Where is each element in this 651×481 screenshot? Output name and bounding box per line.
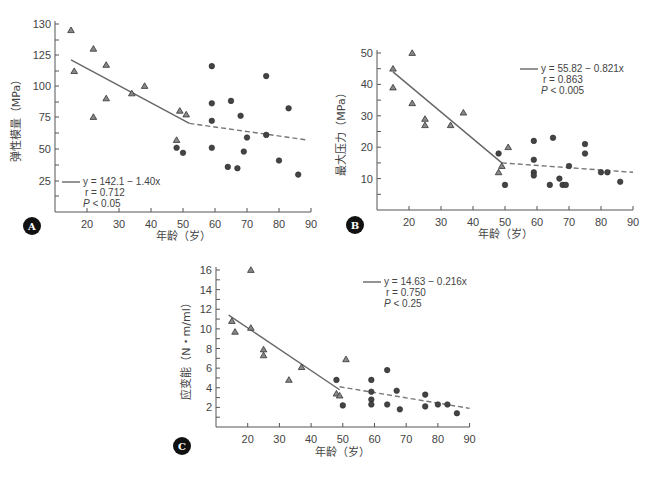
x-tick-label: 60 [209, 218, 221, 230]
circle-marker [180, 150, 186, 156]
circle-marker [225, 164, 231, 170]
circle-marker [566, 163, 572, 169]
y-axis-label: 最大压力（MPa） [334, 87, 348, 175]
y-tick-label: 2 [206, 401, 212, 413]
circle-marker [286, 106, 292, 112]
triangle-marker [409, 100, 416, 106]
x-tick-label: 60 [368, 433, 380, 445]
triangle-marker [183, 111, 190, 117]
circle-marker [422, 392, 428, 398]
circle-marker [605, 170, 611, 176]
legend-r: r = 0.863 [543, 74, 583, 85]
circle-marker [369, 377, 375, 383]
x-tick-label: 90 [463, 433, 475, 445]
x-axis-label: 年龄（岁） [478, 227, 533, 241]
regression-line-solid [229, 315, 340, 390]
x-tick-label: 70 [563, 216, 575, 228]
legend-r: r = 0.750 [386, 287, 426, 298]
y-tick-label: 12 [200, 303, 212, 315]
legend-r: r = 0.712 [85, 187, 125, 198]
y-tick-label: 20 [361, 141, 373, 153]
triangle-marker [103, 62, 110, 68]
circle-marker [276, 158, 282, 164]
y-axis-label: 应变能（N・m/ml） [179, 297, 193, 399]
triangle-marker [90, 46, 97, 52]
x-tick-label: 40 [467, 216, 479, 228]
circle-marker [531, 138, 537, 144]
x-tick-label: 70 [400, 433, 412, 445]
triangle-marker [422, 116, 429, 122]
triangle-marker [390, 66, 397, 72]
circle-marker [340, 403, 346, 409]
circle-marker [228, 98, 234, 104]
triangle-marker [343, 356, 350, 362]
y-tick-label: 30 [361, 110, 373, 122]
legend-p: P < 0.05 [83, 198, 121, 209]
y-tick-label: 75 [39, 111, 51, 123]
triangle-marker [232, 329, 239, 335]
circle-marker [422, 404, 428, 410]
x-tick-label: 40 [145, 218, 157, 230]
circle-marker [334, 377, 340, 383]
legend-p: P < 0.005 [541, 85, 585, 96]
triangle-marker [286, 377, 293, 383]
triangle-marker [260, 352, 267, 358]
y-tick-label: 50 [361, 47, 373, 59]
panel-badge-label: B [351, 220, 359, 231]
circle-marker [209, 101, 215, 107]
triangle-marker [422, 122, 429, 128]
triangle-marker [71, 68, 78, 74]
y-tick-label: 125 [33, 49, 51, 61]
circle-marker [496, 151, 502, 157]
x-tick-label: 80 [595, 216, 607, 228]
triangle-marker [103, 95, 110, 101]
circle-marker [295, 172, 301, 178]
circle-marker [397, 407, 403, 413]
circle-marker [617, 179, 623, 185]
legend-equation: y = 55.82 − 0.821x [541, 63, 624, 74]
x-tick-label: 30 [435, 216, 447, 228]
circle-marker [445, 402, 451, 408]
circle-marker [174, 145, 180, 151]
y-tick-label: 100 [33, 80, 51, 92]
triangle-marker [68, 27, 75, 33]
y-tick-label: 14 [200, 284, 212, 296]
triangle-marker [260, 346, 267, 352]
triangle-marker [90, 114, 97, 120]
y-tick-label: 16 [200, 264, 212, 276]
circle-marker [563, 182, 569, 188]
circle-marker [384, 402, 390, 408]
x-axis-label: 年龄（岁） [156, 229, 211, 243]
triangle-marker [248, 325, 255, 331]
panel-badge-label: C [178, 441, 186, 452]
x-tick-label: 50 [337, 433, 349, 445]
circle-marker [263, 132, 269, 138]
x-tick-label: 40 [305, 433, 317, 445]
legend-equation: y = 142.1 − 1.40x [83, 176, 160, 187]
y-tick-label: 10 [361, 173, 373, 185]
triangle-marker [390, 84, 397, 90]
x-tick-label: 20 [403, 216, 415, 228]
x-tick-label: 50 [499, 216, 511, 228]
circle-marker [263, 73, 269, 79]
x-tick-label: 60 [531, 216, 543, 228]
circle-marker [454, 410, 460, 416]
x-tick-label: 70 [241, 218, 253, 230]
x-tick-label: 80 [432, 433, 444, 445]
y-tick-label: 130 [33, 18, 51, 30]
circle-marker [531, 157, 537, 163]
x-axis-label: 年龄（岁） [315, 445, 370, 459]
panel-badge-label: A [27, 221, 36, 232]
circle-marker [547, 182, 553, 188]
circle-marker [369, 389, 375, 395]
chart-panel-b: 20304050607080901020304050最大压力（MPa）年龄（岁）… [334, 47, 639, 241]
triangle-marker [141, 83, 148, 89]
x-tick-label: 20 [242, 433, 254, 445]
x-tick-label: 20 [81, 218, 93, 230]
chart-panel-a: 2030405060708090255075100125130弹性模量（MPa）… [9, 18, 317, 243]
regression-line-solid [393, 72, 502, 163]
chart-panel-c: 2030405060708090246810121416应变能（N・m/ml）年… [173, 264, 476, 459]
triangle-marker [505, 144, 512, 150]
circle-marker [394, 388, 400, 394]
figure-canvas: 2030405060708090255075100125130弹性模量（MPa）… [0, 0, 651, 481]
